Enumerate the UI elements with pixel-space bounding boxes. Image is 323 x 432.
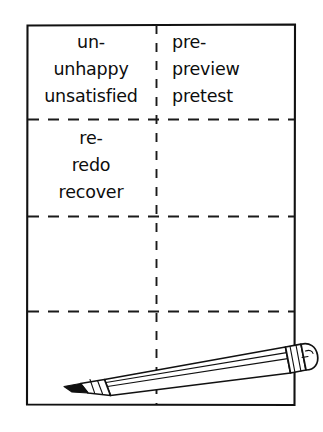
cell-prefix-un-line-3: unsatisfied: [26, 83, 156, 110]
cell-prefix-un-line-2: unhappy: [26, 56, 156, 83]
cell-prefix-pre: pre- preview pretest: [172, 29, 296, 110]
cell-prefix-un: un- unhappy unsatisfied: [26, 29, 156, 110]
cell-prefix-re-line-1: re-: [26, 125, 156, 152]
cell-prefix-pre-line-3: pretest: [172, 83, 296, 110]
cell-prefix-un-line-1: un-: [26, 29, 156, 56]
cell-prefix-pre-line-2: preview: [172, 56, 296, 83]
illustration-canvas: un- unhappy unsatisfied pre- preview pre…: [0, 0, 323, 432]
cell-prefix-re-line-3: recover: [26, 179, 156, 206]
cell-prefix-re: re- redo recover: [26, 125, 156, 206]
cell-prefix-pre-line-1: pre-: [172, 29, 296, 56]
cell-prefix-re-line-2: redo: [26, 152, 156, 179]
